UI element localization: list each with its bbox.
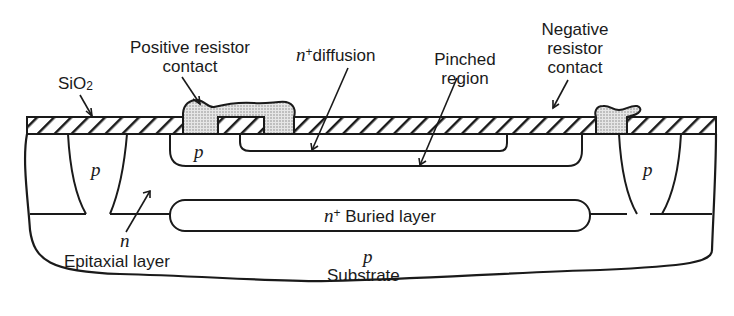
- negative-contact-line3: contact: [530, 58, 620, 77]
- n-diffusion-text: diffusion: [313, 46, 376, 65]
- buried-layer-text: Buried layer: [341, 207, 436, 226]
- label-p-left-isolation: p: [91, 160, 101, 180]
- label-negative-contact: Negative resistor contact: [530, 20, 620, 77]
- label-pinched-region: Pinched region: [425, 50, 505, 88]
- buried-layer-prefix: n: [324, 205, 334, 226]
- positive-contact-arrow: [182, 77, 200, 104]
- label-positive-contact: Positive resistor contact: [110, 38, 270, 76]
- label-buried-layer: n+ Buried layer: [300, 206, 460, 226]
- label-p-right-isolation: p: [643, 160, 653, 180]
- sio2-text: SiO: [58, 74, 86, 93]
- epitaxial-arrow: [126, 191, 150, 232]
- negative-contact-arrow: [553, 80, 568, 108]
- positive-contact-line2: contact: [110, 57, 270, 76]
- label-p-base-diffusion: p: [194, 142, 204, 162]
- label-n-diffusion: n+diffusion: [296, 45, 376, 65]
- buried-layer-sup: +: [334, 206, 341, 220]
- pinched-region-line2: region: [425, 69, 505, 88]
- label-epitaxial-type: n: [120, 231, 130, 251]
- label-sio2: SiO2: [58, 74, 93, 93]
- positive-contact-line1: Positive resistor: [110, 38, 270, 57]
- sio2-layer-mid2: [294, 117, 596, 134]
- sio2-layer-mid1: [218, 117, 264, 134]
- n-plus-diffusion: [240, 134, 507, 151]
- negative-contact-line1: Negative: [530, 20, 620, 39]
- label-substrate-type: p: [363, 247, 373, 267]
- sio2-layer-left: [27, 117, 183, 134]
- negative-contact-line2: resistor: [530, 39, 620, 58]
- sio2-layer-right: [627, 117, 716, 134]
- sio2-arrow: [80, 95, 92, 116]
- pinched-region-line1: Pinched: [425, 50, 505, 69]
- label-substrate-text: Substrate: [327, 266, 400, 285]
- n-diffusion-sup: +: [306, 45, 313, 59]
- label-epitaxial-text: Epitaxial layer: [64, 252, 170, 271]
- sio2-subscript: 2: [86, 79, 93, 93]
- n-diffusion-prefix: n: [296, 44, 306, 65]
- n-diffusion-arrow: [312, 68, 348, 150]
